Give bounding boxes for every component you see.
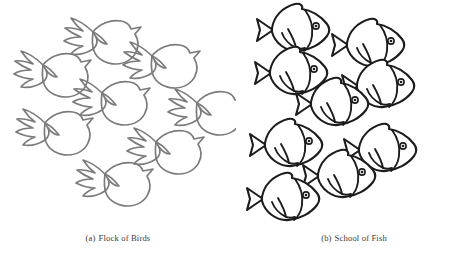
fish-svg xyxy=(236,0,472,228)
bird-shape xyxy=(73,79,150,125)
panel-school-of-fish: (b)School of Fish xyxy=(236,0,472,262)
bird-shape xyxy=(76,160,153,206)
caption-school-of-fish: (b)School of Fish xyxy=(236,232,472,244)
bird-shape xyxy=(123,42,200,88)
bird-shape xyxy=(14,51,91,97)
fish-shape xyxy=(255,47,327,94)
caption-label-b: (b) xyxy=(321,233,331,243)
birds-svg xyxy=(0,0,236,228)
caption-text-b: School of Fish xyxy=(335,233,387,243)
caption-flock-of-birds: (a)Flock of Birds xyxy=(0,232,236,244)
fish-shape xyxy=(257,4,329,51)
bird-shape xyxy=(16,109,93,155)
caption-label-a: (a) xyxy=(86,233,96,243)
fish-group xyxy=(247,4,416,220)
panel-flock-of-birds: (a)Flock of Birds xyxy=(0,0,236,262)
birds-group xyxy=(14,18,236,206)
figure-root: (a)Flock of Birds xyxy=(0,0,472,262)
fish-shape xyxy=(332,19,404,66)
fish-shape xyxy=(250,119,322,166)
bird-shape xyxy=(168,89,236,135)
birds-artwork xyxy=(0,0,236,228)
bird-shape xyxy=(64,18,141,64)
caption-text-a: Flock of Birds xyxy=(99,233,151,243)
bird-shape xyxy=(127,128,204,174)
fish-artwork xyxy=(236,0,472,228)
